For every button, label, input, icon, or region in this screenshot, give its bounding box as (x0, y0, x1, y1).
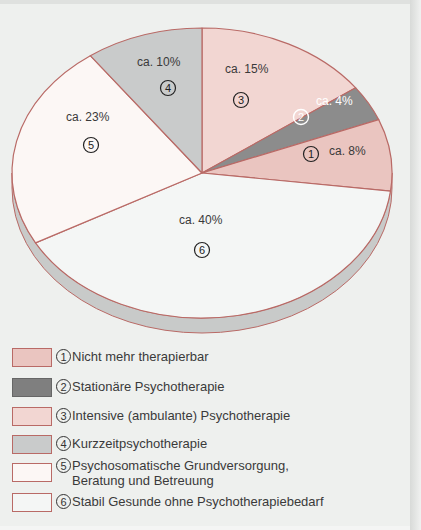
legend-label-5-line1: Psychosomatische Grundversorgung, (72, 458, 289, 473)
legend-item-5: 5 Psychosomatische Grundversorgung, Bera… (12, 457, 289, 488)
legend-number-4: 4 (56, 436, 71, 451)
svg-text:6: 6 (199, 244, 205, 256)
legend-item-2: 2 Stationäre Psychotherapie (12, 378, 224, 397)
legend-label-6: Stabil Gesunde ohne Psychotherapiebedarf (72, 494, 324, 509)
pie-chart: ca. 15% ca. 4% ca. 8% ca. 40% ca. 23% ca… (0, 0, 421, 340)
legend-item-6: 6 Stabil Gesunde ohne Psychotherapiebeda… (12, 493, 324, 512)
svg-text:1: 1 (308, 148, 314, 160)
legend-swatch-6 (12, 493, 52, 512)
legend-number-2: 2 (56, 379, 71, 394)
label-pct-6: ca. 40% (179, 213, 223, 227)
label-pct-4: ca. 10% (137, 55, 181, 69)
legend-number-5: 5 (56, 458, 71, 473)
svg-text:2: 2 (298, 111, 304, 123)
label-pct-1: ca. 8% (329, 144, 366, 158)
svg-text:4: 4 (165, 82, 171, 94)
legend-item-3: 3 Intensive (ambulante) Psychotherapie (12, 407, 290, 426)
label-pct-5: ca. 23% (66, 110, 110, 124)
legend-label-2: Stationäre Psychotherapie (72, 379, 224, 394)
legend-number-3: 3 (56, 408, 71, 423)
legend-label-4: Kurzzeitpsychotherapie (72, 436, 207, 451)
legend-label-1: Nicht mehr therapierbar (72, 349, 209, 364)
legend-item-1: 1 Nicht mehr therapierbar (12, 348, 209, 367)
legend-swatch-1 (12, 348, 52, 367)
legend-swatch-5 (12, 463, 52, 482)
legend-number-1: 1 (56, 349, 71, 364)
legend-swatch-4 (12, 435, 52, 454)
label-pct-2: ca. 4% (316, 94, 353, 108)
legend-swatch-3 (12, 407, 52, 426)
svg-text:3: 3 (238, 94, 244, 106)
svg-text:5: 5 (88, 139, 94, 151)
legend-label-3: Intensive (ambulante) Psychotherapie (72, 408, 290, 423)
legend-number-6: 6 (56, 494, 71, 509)
label-pct-3: ca. 15% (225, 62, 269, 76)
legend-item-4: 4 Kurzzeitpsychotherapie (12, 435, 207, 454)
legend-label-5-line2: Beratung und Betreuung (72, 473, 214, 488)
legend-swatch-2 (12, 378, 52, 397)
legend-label-5: Psychosomatische Grundversorgung, Beratu… (72, 458, 289, 488)
